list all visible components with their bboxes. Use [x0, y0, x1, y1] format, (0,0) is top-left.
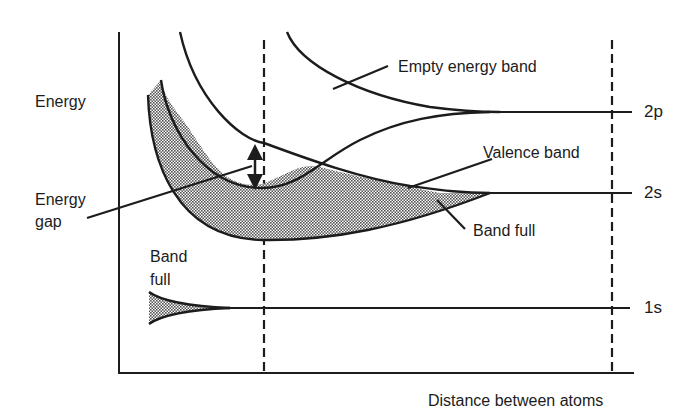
energy-gap-label-line2: gap: [35, 212, 62, 231]
empty-band-leader-line: [333, 66, 388, 89]
valence-band-leader-line: [408, 159, 492, 188]
x-axis-label: Distance between atoms: [428, 391, 603, 410]
level-1s-label: 1s: [644, 298, 662, 317]
valence-band-label: Valence band: [483, 143, 580, 162]
y-axis-label: Energy: [35, 92, 86, 111]
empty-band-label: Empty energy band: [398, 57, 537, 76]
level-2p-label: 2p: [644, 102, 663, 121]
level-2s-label: 2s: [644, 183, 662, 202]
diagram-canvas: [0, 0, 699, 416]
energy-gap-label-line1: Energy: [35, 190, 86, 209]
band-full-left-label-line1: Band: [150, 247, 187, 266]
band-diagram: Energy Energy gap Empty energy band Vale…: [0, 0, 699, 416]
band-full-right-label: Band full: [473, 221, 535, 240]
band-full-left-label-line2: full: [150, 270, 170, 289]
